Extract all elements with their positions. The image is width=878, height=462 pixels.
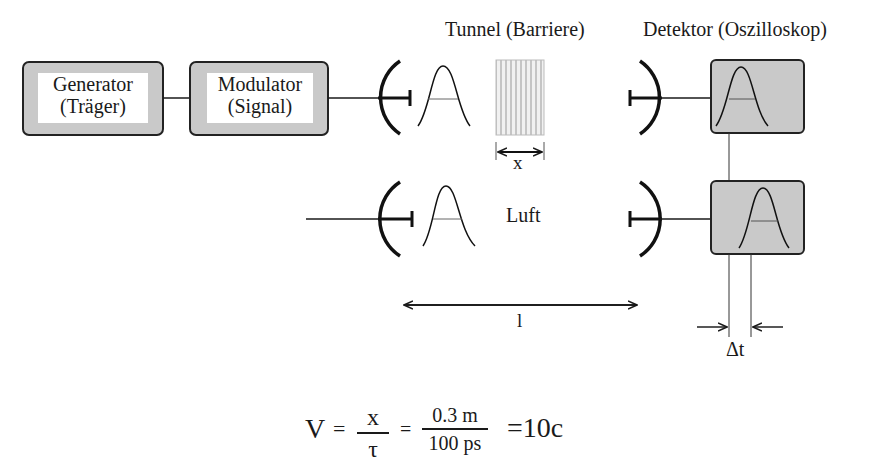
formula-lhs: V bbox=[305, 413, 325, 445]
receiver-antenna-icon bbox=[630, 182, 711, 256]
formula-eq2: = bbox=[400, 418, 411, 441]
tunnel-heading: Tunnel (Barriere) bbox=[445, 18, 585, 41]
receiver-antenna-icon bbox=[630, 61, 711, 134]
generator-subtitle: (Träger) bbox=[38, 95, 148, 117]
modulator-label: Modulator (Signal) bbox=[207, 73, 313, 123]
formula-result: =10c bbox=[507, 412, 563, 444]
transmitter-antenna-icon bbox=[378, 182, 412, 256]
air-label: Luft bbox=[506, 204, 540, 227]
detector-heading: Detektor (Oszilloskop) bbox=[643, 18, 827, 41]
barrier-width-label: x bbox=[513, 152, 523, 174]
pulse-icon bbox=[423, 186, 475, 246]
formula-fraction-1: x τ bbox=[357, 405, 389, 461]
modulator-subtitle: (Signal) bbox=[207, 95, 313, 117]
frac2-denominator: 100 ps bbox=[429, 433, 482, 453]
frac1-numerator: x bbox=[367, 405, 379, 429]
formula-eq1: = bbox=[333, 416, 345, 442]
velocity-formula: V = x τ = 0.3 m 100 ps =10c bbox=[305, 400, 625, 450]
modulator-title: Modulator bbox=[207, 73, 313, 95]
delta-t-label: Δt bbox=[726, 338, 744, 361]
frac2-bar bbox=[422, 428, 488, 430]
transmitter-antenna-icon bbox=[378, 61, 410, 134]
frac1-denominator: τ bbox=[368, 437, 378, 461]
generator-title: Generator bbox=[38, 73, 148, 95]
oscilloscope-screen-1 bbox=[711, 60, 804, 133]
formula-fraction-2: 0.3 m 100 ps bbox=[422, 405, 488, 453]
distance-label: l bbox=[517, 310, 522, 332]
oscilloscope-screen-2 bbox=[711, 181, 804, 254]
frac1-bar bbox=[357, 432, 389, 434]
pulse-icon bbox=[418, 66, 470, 126]
frac2-numerator: 0.3 m bbox=[432, 405, 478, 425]
generator-label: Generator (Träger) bbox=[38, 73, 148, 123]
delta-t-dimension bbox=[697, 254, 783, 337]
diagram-canvas bbox=[0, 0, 878, 462]
tunnel-barrier bbox=[496, 60, 544, 135]
